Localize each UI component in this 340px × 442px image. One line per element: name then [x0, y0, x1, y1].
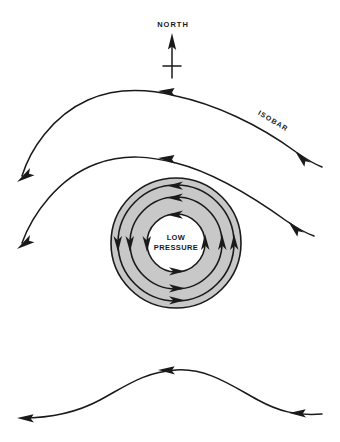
diagram-canvas: NORTH ISOBAR — [0, 0, 340, 442]
lower-isobar-curve — [17, 366, 322, 422]
north-label: NORTH — [157, 20, 189, 29]
lower-isobar-path — [22, 370, 322, 418]
middle-isobar-right-arrow — [288, 221, 304, 237]
upper-isobar-path — [22, 91, 322, 177]
north-arrow-icon — [163, 33, 181, 78]
low-pressure-label-line2: PRESSURE — [154, 243, 198, 252]
upper-isobar-curve — [17, 88, 322, 182]
upper-isobar-left-arrow — [17, 168, 34, 182]
low-pressure-system: LOW PRESSURE — [111, 178, 241, 308]
middle-isobar-left-arrow — [17, 235, 34, 249]
weather-diagram: NORTH ISOBAR — [0, 0, 340, 442]
upper-isobar-right-arrow — [295, 151, 311, 167]
low-pressure-label-line1: LOW — [167, 233, 186, 242]
